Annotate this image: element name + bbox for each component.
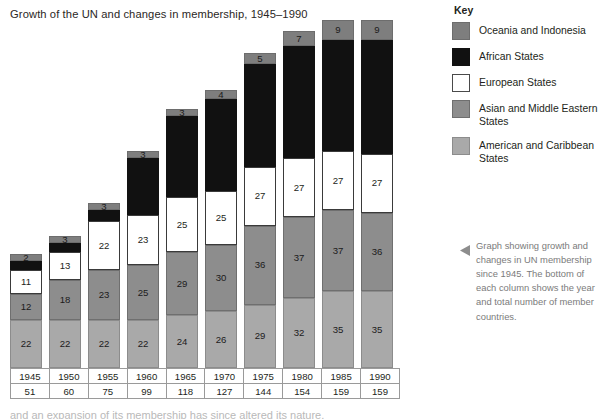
axis-total-cell: 60 [49, 384, 88, 399]
bar-segment-value: 51 [294, 97, 305, 107]
bar-segment: 35 [322, 291, 354, 368]
bar-column: 326232522 [127, 151, 159, 368]
bar-segment-value: 27 [333, 176, 344, 186]
bar-segment-value: 35 [372, 325, 383, 335]
bar-segment: 22 [88, 221, 120, 269]
axis-year-cell: 1945 [11, 369, 50, 384]
axis-year-cell: 1950 [49, 369, 88, 384]
bar-segment: 22 [10, 320, 42, 368]
legend-item-label: Asian and Middle Eastern States [479, 100, 603, 129]
axis-total-cell: 144 [244, 384, 283, 399]
bar-segment: 26 [127, 158, 159, 215]
bar-segment: 18 [49, 280, 81, 319]
bar-segment-value: 29 [177, 279, 188, 289]
legend-item-label: African States [479, 48, 544, 63]
bar-segment: 29 [166, 252, 198, 315]
bar-segment: 11 [10, 270, 42, 294]
bar-segment-value: 42 [216, 140, 227, 150]
bar-segment: 27 [283, 158, 315, 217]
bar-segment-value: 37 [294, 253, 305, 263]
bar-segment-value: 35 [333, 325, 344, 335]
bar-segment-value: 30 [216, 273, 227, 283]
legend-color-swatch [452, 48, 470, 66]
bar-segment: 25 [205, 191, 237, 246]
bar-segment: 5 [244, 53, 276, 64]
bar-segment: 22 [49, 320, 81, 368]
bar-segment-value: 51 [333, 91, 344, 101]
bar-segment-value: 23 [99, 290, 110, 300]
bar-segment: 26 [205, 311, 237, 368]
bar-segment: 47 [244, 64, 276, 167]
legend-item-label: European States [479, 74, 556, 89]
bar-segment-value: 26 [138, 182, 149, 192]
bar-segment: 22 [127, 320, 159, 368]
bar-segment-value: 12 [21, 302, 32, 312]
bar-segment: 37 [166, 116, 198, 197]
axis-row-totals: 51607599118127144154159159 [11, 384, 400, 399]
axis-total-cell: 159 [361, 384, 400, 399]
bar-segment: 4 [10, 261, 42, 270]
legend-color-swatch [452, 22, 470, 40]
below-figure-body-text: and an expansion of its membership has s… [10, 410, 400, 419]
bar-segment-value: 36 [372, 247, 383, 257]
legend-item: American and Caribbean States [452, 137, 607, 166]
axis-year-cell: 1975 [244, 369, 283, 384]
legend-color-swatch [452, 74, 470, 92]
bar-segment: 4 [49, 243, 81, 252]
bar-segment-value: 24 [177, 337, 188, 347]
bar-segment: 12 [10, 294, 42, 320]
bar-column: 951273735 [322, 20, 354, 368]
left-triangle-icon [460, 242, 471, 260]
bar-segment-value: 9 [335, 25, 340, 35]
bar-segment-value: 4 [23, 260, 28, 270]
axis-total-cell: 159 [322, 384, 361, 399]
axis-total-cell: 51 [11, 384, 50, 399]
bar-segment: 37 [283, 217, 315, 298]
axis-year-cell: 1970 [205, 369, 244, 384]
bar-segment: 3 [127, 151, 159, 158]
bar-segment-value: 27 [372, 178, 383, 188]
axis-total-cell: 75 [88, 384, 127, 399]
legend-heading: Key [454, 4, 607, 16]
bar-segment-value: 25 [216, 213, 227, 223]
bar-segment-value: 26 [216, 335, 227, 345]
bar-segment-value: 9 [374, 25, 379, 35]
axis-total-cell: 99 [127, 384, 166, 399]
bar-segment: 27 [361, 154, 393, 213]
axis-year-cell: 1955 [88, 369, 127, 384]
bar-segment: 32 [283, 298, 315, 368]
bar-segment-value: 37 [333, 246, 344, 256]
bar-segment: 22 [88, 320, 120, 368]
bar-column: 337252924 [166, 109, 198, 368]
bar-segment-value: 22 [60, 339, 71, 349]
bar-segment: 5 [88, 210, 120, 221]
bar-segment: 25 [166, 197, 198, 252]
bar-segment-value: 22 [138, 339, 149, 349]
bar-segment: 25 [127, 265, 159, 320]
bar-column: 751273732 [283, 31, 315, 368]
bar-segment: 37 [322, 210, 354, 291]
legend-color-swatch [452, 137, 470, 155]
bar-segment-value: 5 [257, 54, 262, 64]
legend-item: Asian and Middle Eastern States [452, 100, 607, 129]
stacked-bar-chart-plot: 2411122234131822352223223262325223372529… [10, 6, 400, 368]
bar-segment-value: 27 [294, 183, 305, 193]
legend-item: European States [452, 74, 607, 92]
bar-segment-value: 36 [255, 260, 266, 270]
bar-segment-value: 37 [177, 152, 188, 162]
bar-column: 24111222 [10, 254, 42, 368]
bar-segment: 9 [322, 20, 354, 40]
bar-segment-value: 27 [255, 191, 266, 201]
bar-segment: 27 [322, 151, 354, 210]
figure-caption: Graph showing growth and changes in UN m… [460, 239, 606, 324]
legend-item: Oceania and Indonesia [452, 22, 607, 40]
bar-segment: 36 [244, 226, 276, 305]
bar-segment: 52 [361, 40, 393, 154]
bar-segment-value: 7 [296, 34, 301, 44]
axis-total-cell: 118 [166, 384, 205, 399]
axis-year-cell: 1990 [361, 369, 400, 384]
bar-segment: 30 [205, 245, 237, 311]
bar-segment-value: 11 [21, 277, 31, 287]
bar-segment-value: 47 [255, 110, 266, 120]
bar-segment: 23 [127, 215, 159, 265]
